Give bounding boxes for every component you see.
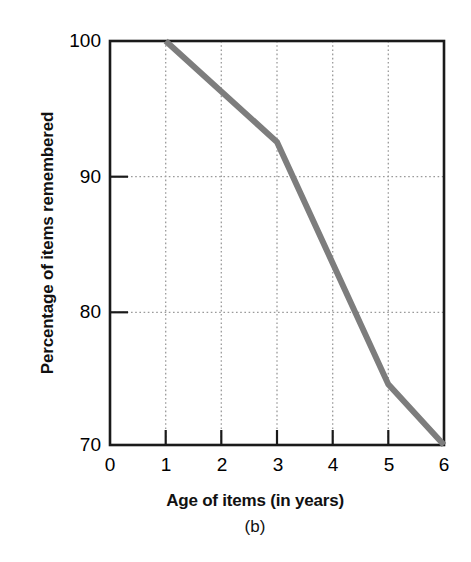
x-axis-title: Age of items (in years): [60, 491, 450, 511]
panel-label: (b): [60, 517, 450, 537]
data-series-line: [166, 41, 444, 445]
x-tick-label-2: 2: [207, 455, 237, 474]
y-tick-label-70: 70: [55, 435, 101, 454]
y-tick-label-90: 90: [55, 167, 101, 186]
x-tick-label-1: 1: [151, 455, 181, 474]
x-tick-label-4: 4: [318, 455, 348, 474]
y-tick-label-80: 80: [55, 302, 101, 321]
vertical-gridlines: [166, 41, 389, 445]
y-tick-label-100: 100: [55, 31, 101, 50]
x-tick-label-6: 6: [429, 455, 459, 474]
figure-panel-b: Percentage of items remembered 100 90 80…: [0, 0, 471, 562]
x-tick-label-0: 0: [95, 455, 125, 474]
y-axis-title: Percentage of items remembered: [28, 41, 68, 445]
line-chart-plot-area: [0, 0, 471, 562]
y-axis-ticks: [110, 177, 128, 313]
x-axis-ticks: [166, 430, 389, 445]
x-tick-label-5: 5: [374, 455, 404, 474]
x-tick-label-3: 3: [263, 455, 293, 474]
